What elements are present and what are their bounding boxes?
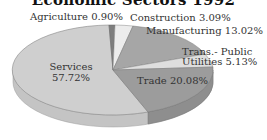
label-manufacturing: Manufacturing 13.02% [146,25,263,36]
label-construction: Construction 3.09% [130,12,231,23]
label-services-line2: 57.72% [48,72,94,83]
label-services-line1: Services [48,61,94,72]
label-trade: Trade 20.08% [137,75,208,86]
label-agriculture: Agriculture 0.90% [30,11,123,22]
label-trans-line2: Utilities 5.13% [182,56,257,67]
